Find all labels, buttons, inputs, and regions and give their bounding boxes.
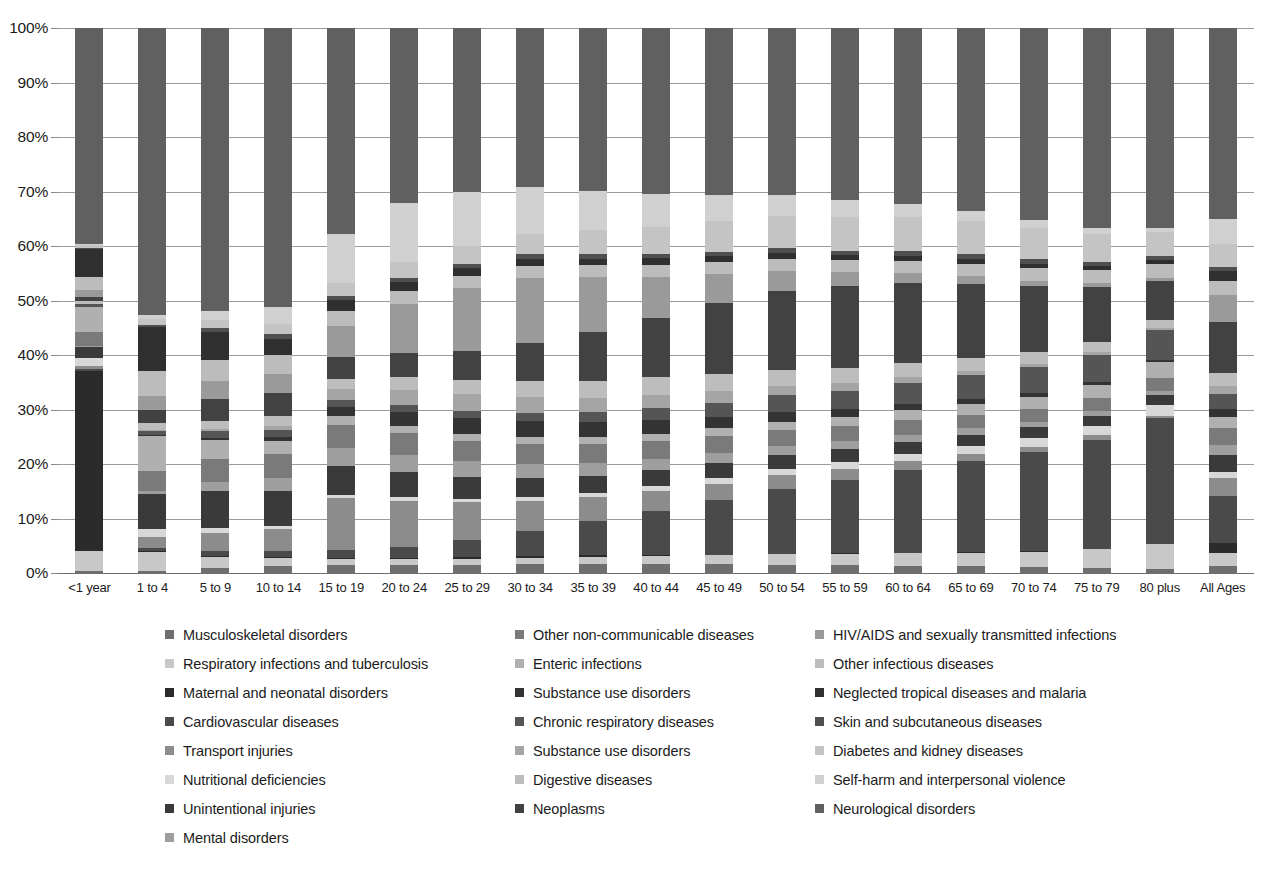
legend-item[interactable]: Self-harm and interpersonal violence (815, 772, 1225, 788)
bar-segment[interactable] (516, 564, 544, 573)
bar-segment[interactable] (1083, 270, 1111, 283)
stacked-bar[interactable] (453, 28, 481, 573)
stacked-bar[interactable] (768, 28, 796, 573)
bar-segment[interactable] (642, 459, 670, 470)
bar-segment[interactable] (957, 461, 985, 552)
bar-segment[interactable] (768, 422, 796, 431)
bar-segment[interactable] (453, 288, 481, 351)
bar-segment[interactable] (516, 413, 544, 421)
bar-segment[interactable] (705, 436, 733, 452)
stacked-bar[interactable] (516, 28, 544, 573)
bar-segment[interactable] (453, 418, 481, 434)
bar-segment[interactable] (138, 494, 166, 529)
bar-segment[interactable] (705, 463, 733, 478)
bar-segment[interactable] (138, 471, 166, 491)
bar-segment[interactable] (1083, 549, 1111, 568)
bar-segment[interactable] (453, 246, 481, 263)
bar-segment[interactable] (201, 320, 229, 329)
bar-segment[interactable] (327, 550, 355, 558)
bar-column[interactable] (499, 28, 562, 573)
bar-segment[interactable] (831, 368, 859, 383)
bar-segment[interactable] (831, 409, 859, 417)
bar-column[interactable] (939, 28, 1002, 573)
stacked-bar[interactable] (390, 28, 418, 573)
bar-segment[interactable] (1209, 271, 1237, 281)
bar-segment[interactable] (831, 28, 859, 200)
legend-item[interactable]: Substance use disorders (515, 685, 815, 701)
bar-segment[interactable] (75, 347, 103, 357)
bar-segment[interactable] (1083, 426, 1111, 435)
bar-segment[interactable] (327, 28, 355, 233)
bar-segment[interactable] (453, 477, 481, 499)
bar-segment[interactable] (201, 381, 229, 398)
bar-segment[interactable] (957, 566, 985, 573)
bar-segment[interactable] (390, 353, 418, 377)
bar-segment[interactable] (327, 407, 355, 416)
bar-segment[interactable] (264, 441, 292, 454)
bar-segment[interactable] (138, 436, 166, 471)
bar-segment[interactable] (516, 478, 544, 497)
bar-segment[interactable] (138, 529, 166, 537)
bar-segment[interactable] (894, 273, 922, 283)
bar-segment[interactable] (768, 291, 796, 370)
bar-segment[interactable] (768, 395, 796, 411)
stacked-bar[interactable] (327, 28, 355, 573)
bar-segment[interactable] (957, 553, 985, 567)
bar-segment[interactable] (75, 358, 103, 367)
bar-column[interactable] (1002, 28, 1065, 573)
bar-segment[interactable] (327, 565, 355, 573)
bar-segment[interactable] (579, 412, 607, 422)
bar-segment[interactable] (390, 412, 418, 426)
bar-segment[interactable] (1146, 320, 1174, 329)
bar-segment[interactable] (894, 283, 922, 363)
bar-segment[interactable] (201, 360, 229, 382)
legend-item[interactable]: Chronic respiratory diseases (515, 714, 815, 730)
legend-item[interactable]: Maternal and neonatal disorders (165, 685, 515, 701)
bar-segment[interactable] (201, 311, 229, 320)
bar-segment[interactable] (1209, 553, 1237, 566)
legend-item[interactable]: Other non-communicable diseases (515, 627, 815, 643)
bar-segment[interactable] (894, 217, 922, 251)
bar-segment[interactable] (642, 491, 670, 511)
stacked-bar[interactable] (831, 28, 859, 573)
bar-segment[interactable] (390, 426, 418, 433)
bar-segment[interactable] (138, 552, 166, 571)
bar-segment[interactable] (1209, 394, 1237, 409)
bar-segment[interactable] (768, 386, 796, 395)
bar-segment[interactable] (894, 470, 922, 553)
bar-column[interactable] (688, 28, 751, 573)
bar-segment[interactable] (516, 444, 544, 464)
bar-segment[interactable] (957, 446, 985, 454)
bar-segment[interactable] (642, 441, 670, 458)
bar-segment[interactable] (516, 397, 544, 413)
bar-segment[interactable] (579, 444, 607, 463)
bar-segment[interactable] (894, 435, 922, 442)
bar-column[interactable] (121, 28, 184, 573)
bar-column[interactable] (562, 28, 625, 573)
bar-segment[interactable] (957, 276, 985, 283)
bar-segment[interactable] (1083, 568, 1111, 573)
bar-segment[interactable] (1083, 28, 1111, 228)
bar-segment[interactable] (138, 396, 166, 410)
bar-segment[interactable] (831, 449, 859, 462)
legend-item[interactable]: Diabetes and kidney diseases (815, 743, 1225, 759)
bar-segment[interactable] (264, 355, 292, 374)
stacked-bar[interactable] (642, 28, 670, 573)
bar-segment[interactable] (516, 421, 544, 437)
bar-segment[interactable] (1020, 397, 1048, 409)
bar-segment[interactable] (831, 391, 859, 410)
bar-segment[interactable] (705, 274, 733, 303)
bar-segment[interactable] (579, 277, 607, 332)
bar-segment[interactable] (1020, 552, 1048, 567)
bar-segment[interactable] (1146, 418, 1174, 543)
bar-segment[interactable] (1083, 342, 1111, 352)
bar-segment[interactable] (642, 395, 670, 408)
bar-segment[interactable] (264, 374, 292, 394)
legend-item[interactable]: HIV/AIDS and sexually transmitted infect… (815, 627, 1225, 643)
bar-column[interactable] (1065, 28, 1128, 573)
bar-segment[interactable] (1020, 409, 1048, 422)
bar-segment[interactable] (1209, 543, 1237, 554)
bar-segment[interactable] (75, 551, 103, 572)
bar-segment[interactable] (390, 203, 418, 263)
bar-column[interactable] (750, 28, 813, 573)
